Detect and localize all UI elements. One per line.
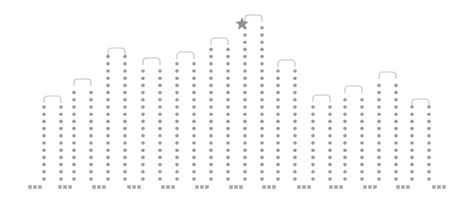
loop-right-dot xyxy=(123,134,127,138)
loop-left-dot xyxy=(209,112,213,116)
loop-right-dot xyxy=(226,91,230,95)
loop-right-dot xyxy=(59,141,63,145)
loop-right-dot xyxy=(123,127,127,131)
loop-right-dot xyxy=(226,148,230,152)
base-dot xyxy=(200,185,204,189)
loop-left-dot xyxy=(106,177,110,181)
loop-left-dot xyxy=(72,170,76,174)
loop-left-dot xyxy=(377,163,381,167)
loop-left-dot xyxy=(377,177,381,181)
loop-left-dot xyxy=(410,134,414,138)
loop-left-dot xyxy=(42,134,46,138)
loop-right-dot xyxy=(260,76,264,80)
loop-left-dot xyxy=(42,170,46,174)
loop-right-dot xyxy=(226,177,230,181)
loop-left-dot xyxy=(209,127,213,131)
loop-right-dot xyxy=(89,91,93,95)
loop-right-dot xyxy=(59,134,63,138)
loop-right-dot xyxy=(394,98,398,102)
loop-right-dot xyxy=(89,170,93,174)
loop-right-dot xyxy=(427,170,431,174)
loop-left-dot xyxy=(175,148,179,152)
loop-left-dot xyxy=(410,127,414,131)
loop-right-dot xyxy=(89,148,93,152)
loop-left-dot xyxy=(276,148,280,152)
loop-left-dot xyxy=(209,69,213,73)
base-dot xyxy=(58,185,62,189)
loop-right-dot xyxy=(328,163,332,167)
loop-right-dot xyxy=(260,156,264,160)
base-dot xyxy=(166,185,170,189)
loop-left-dot xyxy=(343,148,347,152)
loop-right-dot xyxy=(192,120,196,124)
loop-right-dot xyxy=(427,127,431,131)
loop-left-dot xyxy=(175,105,179,109)
loop-left-dot xyxy=(175,163,179,167)
loop-left-dot xyxy=(377,112,381,116)
loop-left-dot xyxy=(209,91,213,95)
loop-right-dot xyxy=(260,33,264,37)
base-dot xyxy=(28,185,32,189)
loop-left-dot xyxy=(276,170,280,174)
loop-left-dot xyxy=(72,112,76,116)
loop-left-dot xyxy=(175,62,179,66)
loop-right-dot xyxy=(260,170,264,174)
loop-right-dot xyxy=(394,105,398,109)
loop-left-dot xyxy=(209,148,213,152)
loop-left-dot xyxy=(343,112,347,116)
loop-right-dot xyxy=(123,84,127,88)
loop-right-dot xyxy=(360,105,364,109)
loop-left-dot xyxy=(276,163,280,167)
loop-right-dot xyxy=(328,112,332,116)
loop-left-dot xyxy=(141,163,145,167)
loop-left-dot xyxy=(106,141,110,145)
loop-left-dot xyxy=(311,148,315,152)
loop-left-dot xyxy=(175,120,179,124)
loop-right-dot xyxy=(192,84,196,88)
loop-right-dot xyxy=(89,105,93,109)
loop-right-dot xyxy=(260,26,264,30)
loop-right-dot xyxy=(226,141,230,145)
loop-right-dot xyxy=(158,112,162,116)
loop-left-dot xyxy=(243,127,247,131)
loop-right-dot xyxy=(192,69,196,73)
loop-right-dot xyxy=(293,170,297,174)
loop-right-dot xyxy=(360,127,364,131)
loop-right-dot xyxy=(293,141,297,145)
base-dot xyxy=(339,185,343,189)
loop-right-dot xyxy=(360,98,364,102)
loop-left-dot xyxy=(72,163,76,167)
loop-left-dot xyxy=(276,156,280,160)
loop-left-dot xyxy=(276,127,280,131)
loop-left-dot xyxy=(72,141,76,145)
loop-left-dot xyxy=(243,156,247,160)
loop-left-dot xyxy=(209,120,213,124)
loop-left-dot xyxy=(243,163,247,167)
loop-right-dot xyxy=(123,112,127,116)
base-dot xyxy=(205,185,209,189)
loop-left-dot xyxy=(209,134,213,138)
loop-right-dot xyxy=(123,163,127,167)
loop-left-dot xyxy=(106,127,110,131)
loop-right-dot xyxy=(226,55,230,59)
loop-left-dot xyxy=(141,134,145,138)
loop-arc xyxy=(74,79,91,86)
loop-left-dot xyxy=(106,76,110,80)
loop-arc xyxy=(177,52,194,59)
loop-right-dot xyxy=(293,163,297,167)
loop-right-dot xyxy=(328,127,332,131)
base-dot xyxy=(92,185,96,189)
loop-right-dot xyxy=(226,48,230,52)
base-dot xyxy=(234,185,238,189)
loop-right-dot xyxy=(293,148,297,152)
loop-right-dot xyxy=(192,148,196,152)
loop-left-dot xyxy=(141,120,145,124)
loop-right-dot xyxy=(89,120,93,124)
loop-arc xyxy=(143,58,160,65)
loop-left-dot xyxy=(175,112,179,116)
loop-right-dot xyxy=(89,127,93,131)
loop-right-dot xyxy=(226,163,230,167)
loop-right-dot xyxy=(427,120,431,124)
loop-left-dot xyxy=(377,134,381,138)
loop-right-dot xyxy=(427,141,431,145)
